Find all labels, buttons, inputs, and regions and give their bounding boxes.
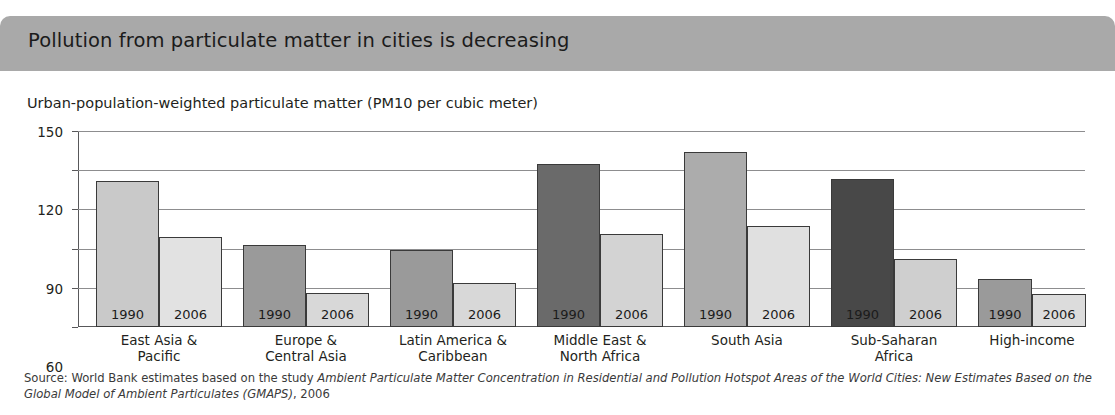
bar-chart: 0306090120150 19902006East Asia & Pacifi… (0, 0, 1115, 415)
x-axis-group-label: East Asia & Pacific (96, 333, 222, 365)
bar-year-label: 2006 (895, 308, 956, 321)
bar-group: 19902006Latin America & Caribbean (390, 131, 516, 327)
y-tick-label-120: 120 (37, 202, 63, 218)
x-axis-group-label: Europe & Central Asia (243, 333, 369, 365)
bar-year-label: 1990 (538, 308, 599, 321)
y-tick-150: 150 (72, 131, 78, 132)
bar-year-label: 1990 (97, 308, 158, 321)
bar-1990[interactable]: 1990 (243, 245, 306, 327)
y-tick-90: 90 (72, 209, 78, 210)
x-axis-group-label: High-income (978, 333, 1086, 349)
y-tick-label-150: 150 (37, 124, 63, 140)
y-tick-60: 60 (72, 249, 78, 250)
bar-group: 19902006Middle East & North Africa (537, 131, 663, 327)
bar-2006[interactable]: 2006 (600, 234, 663, 327)
bar-year-label: 1990 (391, 308, 452, 321)
bar-1990[interactable]: 1990 (96, 181, 159, 327)
source-suffix: , 2006 (293, 387, 330, 401)
bar-year-label: 1990 (244, 308, 305, 321)
source-note: Source: World Bank estimates based on th… (24, 371, 1104, 403)
bar-year-label: 2006 (601, 308, 662, 321)
plot-area: 0306090120150 19902006East Asia & Pacifi… (78, 131, 1085, 327)
bar-2006[interactable]: 2006 (747, 226, 810, 327)
bar-group: 19902006South Asia (684, 131, 810, 327)
bar-2006[interactable]: 2006 (453, 283, 516, 327)
bar-group: 19902006East Asia & Pacific (96, 131, 222, 327)
bar-2006[interactable]: 2006 (306, 293, 369, 327)
bar-group: 19902006High-income (978, 131, 1086, 327)
y-tick-30: 30 (72, 288, 78, 289)
bar-1990[interactable]: 1990 (390, 250, 453, 327)
y-tick-label-90: 90 (46, 281, 63, 297)
bar-year-label: 2006 (160, 308, 221, 321)
bar-2006[interactable]: 2006 (159, 237, 222, 327)
x-axis-group-label: Middle East & North Africa (537, 333, 663, 365)
bar-1990[interactable]: 1990 (831, 179, 894, 327)
bar-year-label: 2006 (454, 308, 515, 321)
bar-year-label: 2006 (307, 308, 368, 321)
bar-2006[interactable]: 2006 (1032, 294, 1086, 327)
y-tick-0: 0 (72, 327, 78, 328)
bar-year-label: 1990 (685, 308, 746, 321)
x-axis-group-label: Sub-Saharan Africa (831, 333, 957, 365)
bar-year-label: 1990 (979, 308, 1031, 321)
source-prefix: Source: World Bank estimates based on th… (24, 371, 317, 385)
bar-year-label: 2006 (1033, 308, 1085, 321)
bar-year-label: 1990 (832, 308, 893, 321)
x-axis-group-label: Latin America & Caribbean (390, 333, 516, 365)
y-tick-120: 120 (72, 170, 78, 171)
bar-1990[interactable]: 1990 (978, 279, 1032, 327)
bar-year-label: 2006 (748, 308, 809, 321)
bar-group: 19902006Sub-Saharan Africa (831, 131, 957, 327)
bar-1990[interactable]: 1990 (684, 152, 747, 327)
bar-2006[interactable]: 2006 (894, 259, 957, 327)
bar-group: 19902006Europe & Central Asia (243, 131, 369, 327)
x-axis-group-label: South Asia (684, 333, 810, 349)
bar-1990[interactable]: 1990 (537, 164, 600, 327)
